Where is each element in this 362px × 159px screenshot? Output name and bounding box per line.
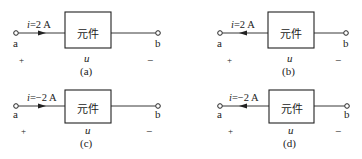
terminal-b-label: b: [344, 109, 350, 120]
element-label: 元件: [65, 100, 111, 116]
arrow-right-icon: [38, 104, 46, 109]
arrow-right-icon: [38, 31, 46, 36]
element-label: 元件: [268, 25, 314, 41]
current-label: i=2 A: [231, 19, 255, 30]
arrow-left-icon: [239, 104, 247, 109]
minus-sign: −: [335, 126, 341, 137]
terminal-a-label: a: [217, 38, 222, 49]
plus-sign: +: [228, 126, 233, 137]
terminal-a-label: a: [13, 38, 18, 49]
voltage-label: u: [288, 125, 294, 136]
terminal-a-label: a: [217, 109, 222, 120]
plus-sign: +: [21, 126, 26, 137]
caption: (d): [283, 138, 296, 149]
terminal-b-label: b: [155, 38, 161, 49]
voltage-label: u: [85, 125, 91, 136]
caption: (b): [282, 66, 295, 77]
voltage-label: u: [287, 53, 293, 64]
arrow-left-icon: [239, 31, 247, 36]
minus-sign: −: [146, 126, 152, 137]
voltage-label: u: [84, 53, 90, 64]
circuit-panel-a: i=2 A 元件 a b + u − (a): [0, 0, 181, 79]
terminal-b-label: b: [155, 109, 161, 120]
element-label: 元件: [269, 100, 314, 116]
circuit-panel-c: i=−2 A 元件 a b + u − (c): [0, 80, 181, 159]
caption: (a): [80, 66, 92, 77]
current-label: i=−2 A: [27, 92, 57, 103]
current-label: i=−2 A: [229, 92, 259, 103]
minus-sign: −: [335, 55, 341, 66]
terminal-a-label: a: [13, 109, 18, 120]
plus-sign: +: [227, 55, 232, 66]
current-label: i=2 A: [27, 19, 51, 30]
caption: (c): [80, 138, 92, 149]
terminal-b-label: b: [343, 38, 349, 49]
minus-sign: −: [147, 55, 153, 66]
element-label: 元件: [65, 25, 111, 41]
circuit-wiring-d: [181, 80, 362, 159]
plus-sign: +: [19, 55, 24, 66]
circuit-panel-b: i=2 A 元件 a b + u − (b): [181, 0, 362, 79]
circuit-panel-d: i=−2 A 元件 a b + u − (d): [181, 80, 362, 159]
